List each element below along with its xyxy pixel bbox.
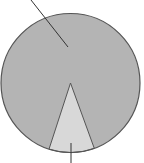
pie-diagram <box>0 0 144 163</box>
pie-chart-svg <box>0 0 144 163</box>
